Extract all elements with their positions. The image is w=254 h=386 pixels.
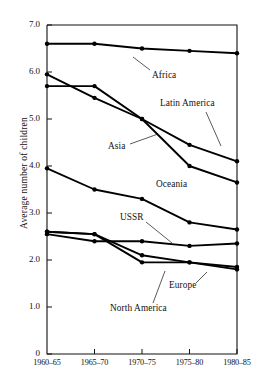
x-axis-tick-label: 1975–80 [166,358,214,367]
data-point-africa [45,42,49,46]
data-point-asia [45,72,49,76]
y-axis-tick-label: 7.0 [6,19,40,29]
data-point-latin-america [92,84,96,88]
y-axis-tick-label: 1.0 [6,301,40,311]
data-point-oceania [92,187,96,191]
chart-figure: Average number of children 01.02.03.04.0… [0,0,254,386]
data-point-oceania [235,227,239,231]
y-axis-tick-label: 2.0 [6,254,40,264]
data-point-ussr [187,244,191,248]
x-axis-tick-label: 1970–75 [118,358,166,367]
data-point-north-america [187,260,191,264]
leader-line-africa [133,57,150,70]
y-axis-tick-label: 4.0 [6,160,40,170]
data-point-asia [187,164,191,168]
series-label-europe: Europe [169,280,196,290]
data-point-ussr [92,239,96,243]
x-axis-tick-label: 1965–70 [71,358,119,367]
data-point-north-america [92,232,96,236]
data-point-africa [140,46,144,50]
series-label-africa: Africa [152,70,176,80]
data-point-latin-america [187,143,191,147]
x-axis-tick-label: 1980–85 [213,358,254,367]
series-label-latin-america: Latin America [160,98,215,108]
data-point-oceania [45,166,49,170]
data-point-africa [187,49,191,53]
data-point-ussr [140,239,144,243]
data-point-ussr [235,241,239,245]
data-point-latin-america [235,159,239,163]
series-line-asia [47,74,237,182]
data-point-europe [140,253,144,257]
leader-line-latin-america [206,112,221,146]
series-label-ussr: USSR [120,212,144,222]
data-point-africa [92,42,96,46]
y-axis-tick-label: 5.0 [6,113,40,123]
leader-line-north-america [153,271,165,303]
y-axis-tick-label: 0 [6,348,40,358]
leader-line-ussr [146,222,172,243]
data-point-asia [92,96,96,100]
data-point-oceania [140,197,144,201]
leader-line-asia [130,134,158,144]
data-point-north-america [235,267,239,271]
data-point-latin-america [45,84,49,88]
leader-line-europe [196,272,207,283]
data-point-asia [235,180,239,184]
chart-plot-area [0,0,254,386]
series-label-oceania: Oceania [156,179,187,189]
data-point-oceania [187,220,191,224]
data-point-north-america [140,260,144,264]
x-axis-tick-label: 1960–65 [23,358,71,367]
data-point-asia [140,117,144,121]
data-point-africa [235,51,239,55]
data-point-north-america [45,230,49,234]
series-label-asia: Asia [108,141,125,151]
series-label-north-america: North America [110,303,167,313]
y-axis-tick-label: 3.0 [6,207,40,217]
y-axis-tick-label: 6.0 [6,66,40,76]
